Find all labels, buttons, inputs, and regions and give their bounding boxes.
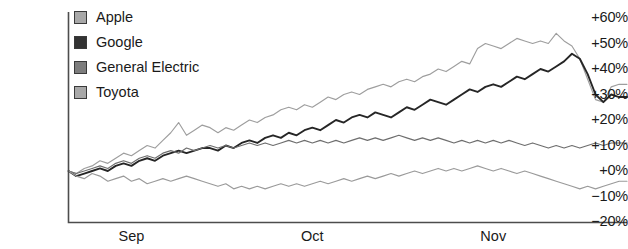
y-axis-tick-label: +30% — [566, 86, 628, 102]
legend-swatch-icon — [74, 61, 87, 74]
legend-item: Apple — [74, 5, 199, 30]
series-line-general-electric — [69, 135, 628, 173]
legend-item: General Electric — [74, 55, 199, 80]
y-axis-tick-label: +0% — [566, 162, 628, 178]
y-axis-tick-label: +40% — [566, 60, 628, 76]
legend-label: Toyota — [96, 85, 139, 100]
x-axis-tick-label: Oct — [301, 228, 324, 244]
y-axis-tick-label: −20% — [566, 213, 628, 229]
legend-item: Google — [74, 30, 199, 55]
y-axis-tick-label: −10% — [566, 188, 628, 204]
stock-performance-chart: +60%+50%+40%+30%+20%+10%+0%−10%−20% SepO… — [0, 0, 628, 249]
legend-label: Apple — [96, 10, 133, 25]
legend-label: General Electric — [96, 60, 199, 75]
y-axis-tick-label: +50% — [566, 35, 628, 51]
chart-legend: AppleGoogleGeneral ElectricToyota — [74, 5, 199, 105]
y-axis-tick-label: +10% — [566, 137, 628, 153]
legend-label: Google — [96, 35, 143, 50]
x-axis-tick-label: Sep — [119, 228, 145, 244]
x-axis-tick-label: Nov — [480, 228, 506, 244]
legend-swatch-icon — [74, 11, 87, 24]
series-line-toyota — [69, 166, 628, 189]
y-axis-tick-label: +60% — [566, 9, 628, 25]
y-axis-tick-label: +20% — [566, 111, 628, 127]
legend-item: Toyota — [74, 80, 199, 105]
legend-swatch-icon — [74, 86, 87, 99]
legend-swatch-icon — [74, 36, 87, 49]
